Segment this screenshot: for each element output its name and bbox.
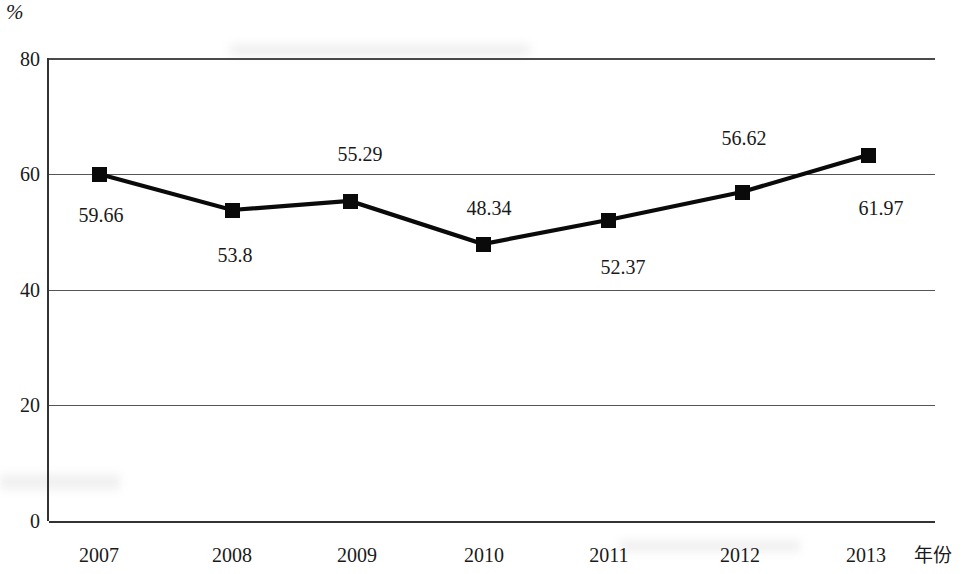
x-tick-label-2012: 2012	[695, 545, 785, 565]
data-label-2012: 56.62	[684, 128, 804, 148]
y-tick-label-20: 20	[0, 395, 40, 415]
data-point-marker[interactable]	[92, 167, 107, 182]
y-tick-label-0: 0	[0, 511, 40, 531]
data-point-marker[interactable]	[601, 213, 616, 228]
x-tick-label-2009: 2009	[312, 545, 402, 565]
data-point-marker[interactable]	[225, 203, 240, 218]
data-label-2010: 48.34	[429, 198, 549, 218]
gridline-60	[49, 174, 935, 175]
x-axis-line	[49, 521, 935, 523]
y-tick-text: 40	[20, 279, 40, 301]
x-tick-label-2008: 2008	[187, 545, 277, 565]
gridline-80	[49, 58, 935, 60]
data-label-2011: 52.37	[563, 257, 683, 277]
gridline-20	[49, 405, 935, 406]
scan-artifact	[230, 44, 530, 56]
data-label-2009: 55.29	[300, 144, 420, 164]
data-point-marker[interactable]	[735, 185, 750, 200]
data-point-marker[interactable]	[476, 237, 491, 252]
y-tick-label-60: 60	[0, 164, 40, 184]
y-axis-unit-label: %	[6, 2, 24, 23]
x-axis-title: 年份	[914, 546, 952, 565]
data-point-marker[interactable]	[861, 148, 876, 163]
x-tick-label-2007: 2007	[54, 545, 144, 565]
data-label-2013: 61.97	[821, 198, 941, 218]
data-label-2007: 59.66	[41, 205, 161, 225]
y-tick-text: 20	[20, 394, 40, 416]
data-point-marker[interactable]	[343, 194, 358, 209]
x-tick-label-2011: 2011	[564, 545, 654, 565]
x-tick-label-2013: 2013	[821, 545, 911, 565]
y-tick-text: 60	[20, 163, 40, 185]
gridline-40	[49, 290, 935, 291]
y-tick-text: 0	[30, 510, 40, 532]
y-tick-label-40: 40	[0, 280, 40, 300]
y-tick-label-80: 80	[0, 49, 40, 69]
chart-page: % 80 60 40 20 0 59.66 53.8 55.29 48.34 5…	[0, 0, 972, 574]
data-label-2008: 53.8	[175, 245, 295, 265]
y-tick-text: 80	[20, 48, 40, 70]
x-tick-label-2010: 2010	[439, 545, 529, 565]
